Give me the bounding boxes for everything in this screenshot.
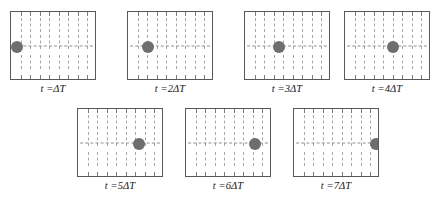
grid-dash bbox=[215, 132, 216, 146]
edge-tick-top bbox=[253, 109, 254, 113]
edge-tick-bottom bbox=[364, 75, 365, 79]
edge-tick-top bbox=[283, 12, 284, 16]
edge-tick-bottom bbox=[393, 75, 394, 79]
grid-dash bbox=[383, 55, 384, 69]
grid-dash bbox=[157, 35, 158, 49]
edge-tick-top bbox=[370, 109, 371, 113]
grid-dash bbox=[304, 132, 305, 146]
grid-panel-1 bbox=[10, 11, 96, 80]
grid-dash bbox=[253, 115, 254, 129]
grid-dash bbox=[138, 18, 139, 32]
edge-tick-bottom bbox=[313, 172, 314, 176]
grid-dash bbox=[135, 115, 136, 129]
edge-tick-top bbox=[88, 109, 89, 113]
grid-dash bbox=[264, 35, 265, 49]
grid-dash bbox=[224, 115, 225, 129]
edge-tick-top bbox=[342, 109, 343, 113]
grid-dash bbox=[412, 18, 413, 32]
grid-dash bbox=[312, 55, 313, 69]
grid-dash bbox=[195, 55, 196, 69]
grid-dash bbox=[204, 55, 205, 69]
edge-tick-bottom bbox=[374, 75, 375, 79]
edge-tick-bottom bbox=[176, 75, 177, 79]
grid-dash bbox=[355, 35, 356, 49]
source-marker-dot bbox=[249, 138, 261, 150]
grid-dash bbox=[370, 115, 371, 129]
grid-dash bbox=[205, 152, 206, 166]
grid-dash bbox=[145, 152, 146, 166]
edge-tick-bottom bbox=[166, 75, 167, 79]
edge-tick-top bbox=[304, 109, 305, 113]
grid-dash bbox=[421, 55, 422, 69]
grid-dash bbox=[262, 132, 263, 146]
grid-dash bbox=[49, 35, 50, 49]
edge-tick-top bbox=[421, 12, 422, 16]
edge-tick-bottom bbox=[351, 172, 352, 176]
grid-dash bbox=[40, 18, 41, 32]
grid-dash bbox=[147, 55, 148, 69]
grid-dash bbox=[302, 35, 303, 49]
edge-tick-top bbox=[383, 12, 384, 16]
edge-tick-bottom bbox=[304, 172, 305, 176]
edge-tick-bottom bbox=[145, 172, 146, 176]
edge-tick-bottom bbox=[21, 75, 22, 79]
grid-dash bbox=[293, 18, 294, 32]
edge-tick-bottom bbox=[253, 172, 254, 176]
edge-tick-top bbox=[68, 12, 69, 16]
grid-dash bbox=[364, 18, 365, 32]
edge-tick-bottom bbox=[370, 172, 371, 176]
grid-dash bbox=[243, 152, 244, 166]
grid-dash bbox=[116, 152, 117, 166]
edge-tick-bottom bbox=[147, 75, 148, 79]
grid-panel-3 bbox=[244, 11, 330, 80]
grid-dash bbox=[383, 35, 384, 49]
grid-dash bbox=[68, 35, 69, 49]
edge-tick-bottom bbox=[87, 75, 88, 79]
edge-tick-top bbox=[274, 12, 275, 16]
grid-dash bbox=[255, 18, 256, 32]
edge-tick-top bbox=[264, 12, 265, 16]
edge-tick-top bbox=[30, 12, 31, 16]
grid-dash bbox=[253, 152, 254, 166]
grid-dash bbox=[321, 55, 322, 69]
grid-dash bbox=[166, 18, 167, 32]
grid-dash bbox=[176, 55, 177, 69]
grid-dash bbox=[262, 115, 263, 129]
edge-tick-bottom bbox=[355, 75, 356, 79]
grid-dash bbox=[313, 132, 314, 146]
grid-dash bbox=[224, 132, 225, 146]
edge-tick-bottom bbox=[196, 172, 197, 176]
panel-caption-1: t =ΔT bbox=[10, 83, 96, 94]
grid-dash bbox=[30, 18, 31, 32]
grid-dash bbox=[157, 55, 158, 69]
grid-dash bbox=[262, 152, 263, 166]
grid-dash bbox=[21, 18, 22, 32]
grid-dash bbox=[393, 18, 394, 32]
edge-tick-top bbox=[59, 12, 60, 16]
grid-dash bbox=[255, 55, 256, 69]
edge-tick-top bbox=[157, 12, 158, 16]
grid-dash bbox=[402, 35, 403, 49]
grid-dash bbox=[87, 55, 88, 69]
grid-dash bbox=[68, 18, 69, 32]
edge-tick-top bbox=[116, 109, 117, 113]
grid-dash bbox=[40, 35, 41, 49]
edge-tick-top bbox=[234, 109, 235, 113]
grid-dash bbox=[383, 18, 384, 32]
edge-tick-bottom bbox=[332, 172, 333, 176]
edge-tick-top bbox=[176, 12, 177, 16]
grid-dash bbox=[195, 35, 196, 49]
grid-dash bbox=[185, 35, 186, 49]
grid-dash bbox=[185, 55, 186, 69]
grid-dash bbox=[361, 115, 362, 129]
grid-dash bbox=[255, 35, 256, 49]
edge-tick-bottom bbox=[185, 75, 186, 79]
edge-tick-bottom bbox=[68, 75, 69, 79]
grid-dash bbox=[313, 152, 314, 166]
grid-dash bbox=[138, 55, 139, 69]
edge-tick-top bbox=[196, 109, 197, 113]
edge-tick-bottom bbox=[383, 75, 384, 79]
edge-tick-bottom bbox=[154, 172, 155, 176]
grid-dash bbox=[154, 132, 155, 146]
grid-dash bbox=[355, 55, 356, 69]
